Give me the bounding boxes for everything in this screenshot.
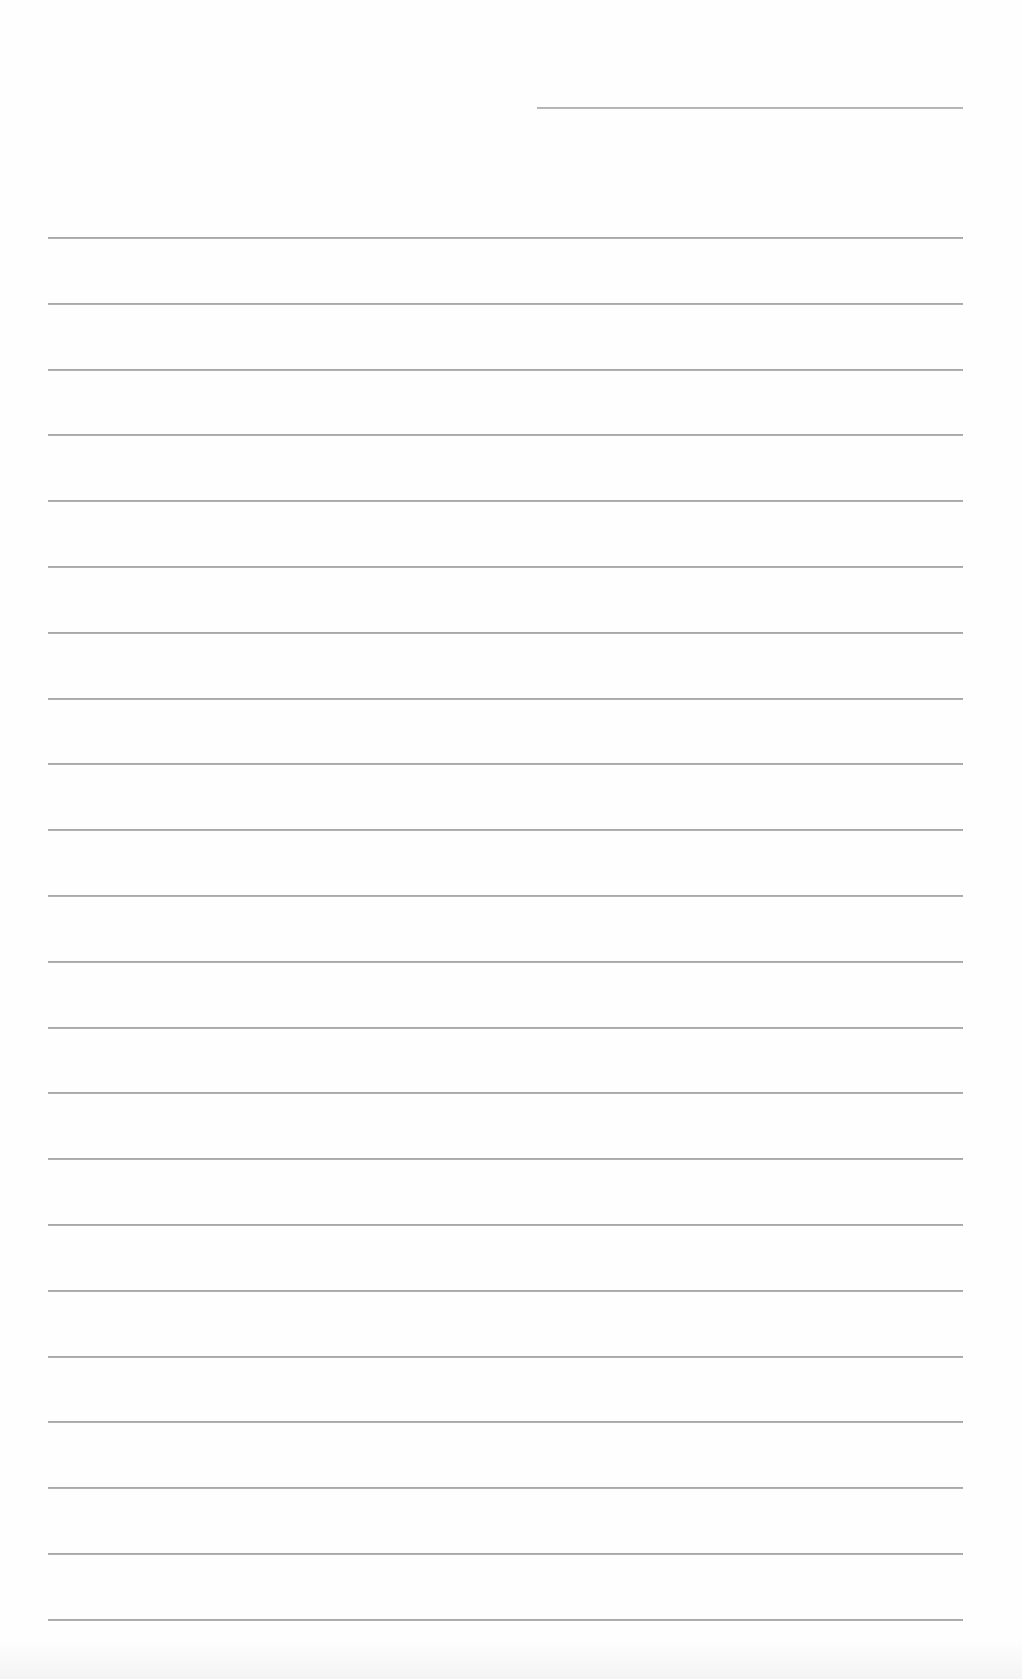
ruled-line [48, 1290, 963, 1292]
ruled-line [48, 1553, 963, 1555]
ruled-line [48, 698, 963, 700]
ruled-line [48, 566, 963, 568]
ruled-line [48, 434, 963, 436]
ruled-line [48, 763, 963, 765]
ruled-line [48, 1224, 963, 1226]
ruled-line [48, 1027, 963, 1029]
ruled-line [48, 1619, 963, 1621]
ruled-line [48, 632, 963, 634]
ruled-line [48, 1356, 963, 1358]
header-rule-line [537, 107, 963, 109]
ruled-line [48, 1092, 963, 1094]
ruled-line [48, 829, 963, 831]
ruled-line [48, 961, 963, 963]
ruled-line [48, 500, 963, 502]
ruled-line [48, 237, 963, 239]
ruled-line [48, 303, 963, 305]
ruled-paper-sheet [0, 0, 1022, 1679]
ruled-line [48, 895, 963, 897]
ruled-line [48, 1158, 963, 1160]
ruled-line [48, 1487, 963, 1489]
ruled-line [48, 369, 963, 371]
scan-edge-shadow [0, 1639, 1022, 1679]
ruled-line [48, 1421, 963, 1423]
